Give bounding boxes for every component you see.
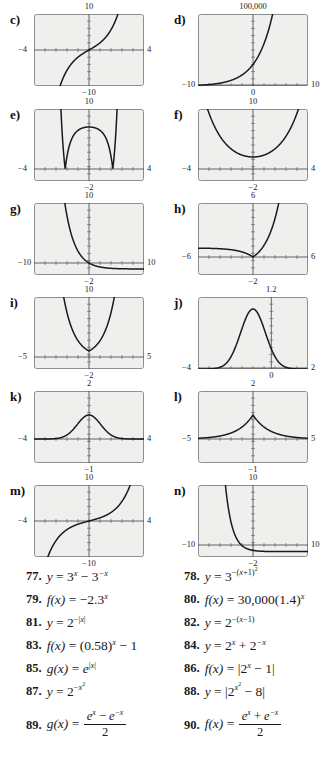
- graph-xmax-label-e: 4: [147, 164, 151, 173]
- exercise-number: 89.: [26, 718, 42, 733]
- exercise-item-83: 83. f(x) = (0.58)x − 1: [0, 634, 164, 657]
- graph-panel-k: k) 2 −1 −4 4: [0, 377, 164, 471]
- graph-xmax-label-m: 4: [147, 516, 151, 525]
- exercise-item-77: 77. y = 3x − 3−x: [0, 565, 164, 588]
- graph-xmax-label-k: 4: [147, 434, 151, 443]
- exercise-item-90: 90. f(x) = ex + e−x2: [164, 703, 328, 747]
- graph-label-f: f): [174, 107, 183, 123]
- exercise-formula: g(x) = ex − e−x2: [47, 710, 128, 740]
- graph-plot-g: [34, 203, 144, 275]
- graph-panel-f: f) 10 −2 −4 4: [164, 95, 328, 189]
- exercise-formula: y = 2−|x|: [47, 615, 86, 631]
- graph-plot-k: [34, 391, 144, 463]
- exercise-row: 81. y = 2−|x| 82. y = 2−(x−1): [0, 611, 328, 634]
- exercise-formula: f(x) = (0.58)x − 1: [47, 638, 138, 654]
- graph-xmin-label-i: −5: [18, 352, 27, 361]
- graph-row: e) 10 −2 −4 4 f) 10 −2 −4 4: [0, 95, 328, 189]
- graph-xmax-label-i: 5: [147, 352, 151, 361]
- graph-plot-d: [198, 14, 308, 86]
- exercise-formula: y = 2x + 2−x: [205, 638, 266, 654]
- exercise-formula: y = 2−(x−1): [205, 615, 255, 631]
- graph-panel-m: m) 10 −10 −4 4: [0, 471, 164, 565]
- graph-ymax-label-i: 10: [85, 285, 94, 294]
- exercise-formula: y = |2x2 − 8|: [205, 684, 265, 700]
- graph-row: m) 10 −10 −4 4 n) 10 −2 −10 10: [0, 471, 328, 565]
- graph-row: k) 2 −1 −4 4 l) 2 −1 −5 5: [0, 377, 328, 471]
- exercise-number: 86.: [184, 661, 200, 676]
- graph-panel-n: n) 10 −2 −10 10: [164, 471, 328, 565]
- graph-xmin-label-l: −5: [182, 434, 191, 443]
- graph-ymax-label-f: 10: [249, 97, 258, 106]
- exercise-formula: f(x) = 30,000(1.4)x: [205, 592, 305, 608]
- graph-label-e: e): [10, 107, 20, 123]
- graph-panel-l: l) 2 −1 −5 5: [164, 377, 328, 471]
- graph-plot-e: [34, 109, 144, 181]
- graph-ymax-label-g: 10: [85, 191, 94, 200]
- graph-label-m: m): [10, 483, 25, 499]
- exercise-item-79: 79. f(x) = −2.3x: [0, 588, 164, 611]
- graph-ymax-label-n: 10: [249, 473, 258, 482]
- graph-panel-i: i) 10 −2 −5 5: [0, 283, 164, 377]
- graph-xmin-label-c: −4: [18, 45, 27, 54]
- graph-row: g) 10 −2 −10 10 h) 6 −2 −6 6: [0, 189, 328, 283]
- exercise-number: 90.: [184, 718, 200, 733]
- graph-xmin-label-k: −4: [18, 434, 27, 443]
- exercise-item-78: 78. y = 3−(x+1)2: [164, 565, 328, 588]
- exercise-number: 84.: [184, 638, 200, 653]
- graph-panel-j: j) 1.2 0 −4 2: [164, 283, 328, 377]
- exercise-list: 77. y = 3x − 3−x 78. y = 3−(x+1)2 79. f(…: [0, 565, 328, 747]
- exercise-number: 81.: [26, 615, 42, 630]
- graph-label-g: g): [10, 201, 21, 217]
- graph-panel-g: g) 10 −2 −10 10: [0, 189, 164, 283]
- exercise-number: 85.: [26, 661, 42, 676]
- graph-xmax-label-g: 10: [147, 258, 156, 267]
- graph-xmax-label-n: 10: [311, 540, 320, 549]
- graph-label-c: c): [10, 12, 20, 28]
- graph-xmax-label-f: 4: [311, 164, 315, 173]
- graph-plot-j: [198, 297, 308, 369]
- graph-row: i) 10 −2 −5 5 j) 1.2 0 −4 2: [0, 283, 328, 377]
- exercise-number: 87.: [26, 684, 42, 699]
- graph-ymax-label-m: 10: [85, 473, 94, 482]
- graph-plot-f: [198, 109, 308, 181]
- exercise-formula: y = 2−x2: [47, 684, 85, 700]
- graph-plot-i: [34, 297, 144, 369]
- exercise-number: 83.: [26, 638, 42, 653]
- exercise-item-81: 81. y = 2−|x|: [0, 611, 164, 634]
- exercise-row: 83. f(x) = (0.58)x − 1 84. y = 2x + 2−x: [0, 634, 328, 657]
- graph-label-l: l): [174, 389, 182, 405]
- graph-panel-c: c) 10 −10 −4 4: [0, 0, 164, 94]
- graph-ymax-label-d: 100,000: [239, 2, 267, 11]
- graph-panel-h: h) 6 −2 −6 6: [164, 189, 328, 283]
- exercise-formula: g(x) = e|x|: [47, 661, 96, 677]
- graph-plot-h: [198, 203, 308, 275]
- graph-xmax-label-d: 10: [311, 80, 320, 89]
- exercise-row: 79. f(x) = −2.3x 80. f(x) = 30,000(1.4)x: [0, 588, 328, 611]
- exercise-item-86: 86. f(x) = |2x − 1|: [164, 657, 328, 680]
- graph-label-i: i): [10, 295, 18, 311]
- exercise-item-89: 89. g(x) = ex − e−x2: [0, 703, 164, 747]
- graph-row: c) 10 −10 −4 4 d) 100,000 −10 10 0: [0, 0, 328, 95]
- exercise-formula: f(x) = |2x − 1|: [205, 661, 275, 677]
- graph-xmin-label-m: −4: [18, 516, 27, 525]
- exercise-number: 79.: [26, 592, 42, 607]
- graph-ymax-label-h: 6: [251, 191, 255, 200]
- exercise-row: 85. g(x) = e|x| 86. f(x) = |2x − 1|: [0, 657, 328, 680]
- exercise-item-87: 87. y = 2−x2: [0, 680, 164, 703]
- exercise-item-88: 88. y = |2x2 − 8|: [164, 680, 328, 703]
- graph-label-d: d): [174, 12, 186, 28]
- graph-xmax-label-l: 5: [311, 434, 315, 443]
- graph-xmin-label-f: −4: [182, 164, 191, 173]
- graph-xmin-label-n: −10: [182, 540, 195, 549]
- exercise-formula: f(x) = −2.3x: [47, 592, 108, 608]
- graph-label-j: j): [174, 295, 183, 311]
- graph-xmin-label-h: −6: [182, 252, 191, 261]
- exercise-item-80: 80. f(x) = 30,000(1.4)x: [164, 588, 328, 611]
- graph-plot-n: [198, 485, 308, 557]
- graph-ymax-label-j: 1.2: [266, 285, 277, 294]
- exercise-formula: y = 3x − 3−x: [47, 569, 108, 585]
- graph-xmin-label-j: −4: [182, 363, 191, 372]
- exercise-row: 77. y = 3x − 3−x 78. y = 3−(x+1)2: [0, 565, 328, 588]
- exercise-item-84: 84. y = 2x + 2−x: [164, 634, 328, 657]
- graph-plot-m: [34, 485, 144, 557]
